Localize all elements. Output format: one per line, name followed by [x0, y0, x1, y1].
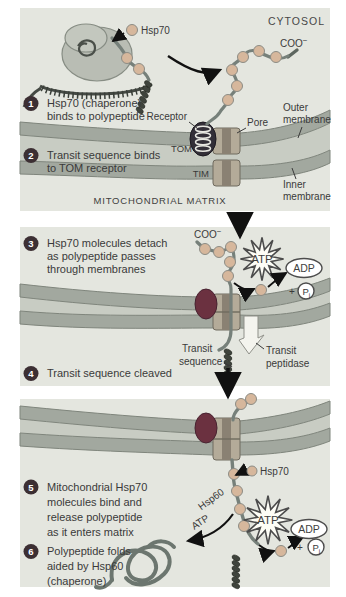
panel-1: Hsp70 CYTOSOL COO− 1 Hsp70 (chaperone) b…: [20, 8, 331, 211]
hsp70-bead: [223, 95, 234, 106]
atp-label: ATP: [257, 514, 279, 526]
released-hsp70-bead: [276, 546, 287, 557]
mt-hsp70-bead: [235, 504, 246, 515]
step-2-number: 2: [28, 150, 33, 161]
receptor-label: Receptor: [146, 111, 187, 122]
outer-membrane-label: membrane: [283, 114, 331, 125]
hsp70-bead-icon: [247, 466, 257, 476]
mt-hsp70-bead: [232, 486, 243, 497]
inner-membrane-label: Inner: [283, 179, 306, 190]
step-4-text: Transit sequence cleaved: [47, 367, 172, 379]
hsp70-bead: [134, 64, 145, 75]
pore-label: Pore: [247, 117, 269, 128]
panel-3: Hsp70 Hsp60 ATP ATP ADP + Pi 5 Mitochond…: [20, 394, 330, 593]
hsp70-bead: [227, 65, 238, 76]
hsp70-bead: [246, 394, 257, 405]
cytosol-label: CYTOSOL: [268, 15, 325, 27]
hsp70-bead-icon: [127, 25, 138, 36]
step-1-text: binds to polypeptide: [47, 110, 145, 122]
step-6-text: aided by Hsp60: [47, 560, 123, 572]
tim-pore: [213, 160, 240, 186]
step-5-text: as it enters matrix: [47, 526, 134, 538]
step-1-number: 1: [28, 98, 34, 109]
transit-peptidase-label: Transit: [266, 345, 296, 356]
diagram-mitochondrial-protein-import: Hsp70 CYTOSOL COO− 1 Hsp70 (chaperone) b…: [0, 0, 346, 597]
hsp70-bead: [238, 52, 249, 63]
step-6-text: (chaperone): [47, 575, 106, 587]
panel-2: ATP ADP + Pi COO− 3 Hsp70 molecules deta…: [20, 227, 330, 386]
outer-membrane-label: Outer: [283, 102, 309, 113]
hsp70-bead: [226, 242, 237, 253]
hsp70-label: Hsp70: [141, 25, 170, 36]
step-5-text: release polypeptide: [47, 511, 142, 523]
step-5-text: molecules bind and: [47, 496, 142, 508]
step-1-text: Hsp70 (chaperone): [47, 97, 141, 109]
hsp70-bead: [200, 244, 211, 255]
mitochondrial-matrix-label: MITOCHONDRIAL MATRIX: [94, 195, 227, 206]
adp-label: ADP: [298, 523, 320, 535]
hsp70-bead: [236, 399, 247, 410]
diagram-canvas: Hsp70 CYTOSOL COO− 1 Hsp70 (chaperone) b…: [0, 0, 346, 597]
step-4-number: 4: [28, 368, 34, 379]
tom-pore: [213, 128, 240, 154]
tom-receptor: [195, 413, 217, 443]
released-hsp70-bead: [256, 285, 267, 296]
tom-receptor: [195, 289, 217, 319]
plus-sign: +: [289, 286, 295, 297]
step-3-text: as polypeptide passes: [47, 250, 156, 262]
translocation-pore: [213, 294, 240, 330]
step-3-text: through membranes: [47, 263, 146, 275]
step-6-text: Polypeptide folds: [47, 545, 131, 557]
transit-sequence-label: sequence: [179, 356, 223, 367]
transit-sequence-label: Transit: [182, 343, 212, 354]
step-2-text: Transit sequence binds: [47, 149, 161, 161]
step-5-number: 5: [28, 482, 34, 493]
hsp70-bead: [271, 52, 282, 63]
hsp70-bead: [223, 271, 234, 282]
hsp70-bead: [254, 46, 265, 57]
tom-label: TOM: [171, 143, 192, 154]
hsp70-label: Hsp70: [260, 466, 289, 477]
tim-label: TIM: [193, 168, 209, 179]
hsp70-bead: [225, 257, 236, 268]
atp-label: ATP: [251, 253, 273, 265]
tom-receptor: [190, 122, 216, 156]
step-2-text: to TOM receptor: [47, 162, 127, 174]
hsp70-bead: [232, 81, 243, 92]
step-6-number: 6: [28, 546, 33, 557]
mt-hsp70-bead: [239, 521, 250, 532]
step-3-number: 3: [28, 238, 33, 249]
inner-membrane-label: membrane: [283, 191, 331, 202]
adp-label: ADP: [293, 262, 315, 274]
plus-sign: +: [297, 542, 303, 553]
step-3-text: Hsp70 molecules detach: [47, 237, 167, 249]
step-5-text: Mitochondrial Hsp70: [47, 481, 147, 493]
hsp70-bead: [122, 53, 133, 64]
transit-peptidase-label: peptidase: [266, 358, 310, 369]
hsp70-bead: [214, 247, 225, 258]
